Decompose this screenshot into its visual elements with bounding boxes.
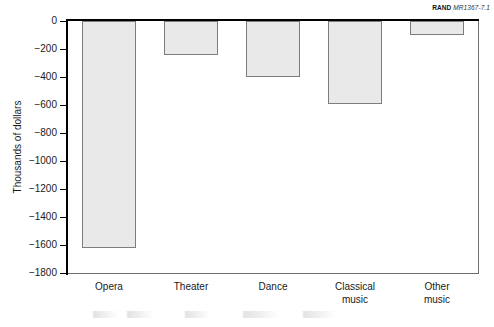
y-axis-tick-label: −1000	[29, 154, 57, 167]
bar	[410, 21, 464, 35]
y-axis-tick: −600	[60, 105, 68, 106]
x-axis-category-label: Theater	[150, 281, 232, 294]
y-axis-title: Thousands of dollars	[11, 21, 25, 273]
x-axis-category-label: Other music	[396, 281, 478, 306]
rand-brand-label: RAND	[432, 4, 451, 11]
bar	[246, 21, 300, 77]
y-axis-tick-label: −400	[34, 70, 57, 83]
x-axis-category-label: Classical music	[314, 281, 396, 306]
y-axis-tick: −200	[60, 49, 68, 50]
y-axis-tick: −1200	[60, 189, 68, 190]
plot-area: 0−200−400−600−800−1000−1200−1400−1600−18…	[68, 21, 478, 273]
y-axis-tick-label: −1800	[29, 266, 57, 279]
y-axis-tick-label: 0	[51, 14, 57, 27]
figure-identifier: RAND MR1367-7.1	[432, 4, 490, 11]
y-axis-tick: −1400	[60, 217, 68, 218]
y-axis-tick-label: −200	[34, 42, 57, 55]
plot-right-border	[478, 21, 479, 274]
bar	[164, 21, 218, 55]
scan-bleed-artifact	[92, 311, 392, 318]
y-axis-tick: −1000	[60, 161, 68, 162]
y-axis-tick: 0	[60, 21, 68, 22]
y-axis-tick-label: −1200	[29, 182, 57, 195]
plot-bottom-border	[68, 273, 479, 274]
y-axis-tick: −800	[60, 133, 68, 134]
x-axis-category-label: Opera	[68, 281, 150, 294]
y-axis-tick: −1600	[60, 245, 68, 246]
y-axis-tick: −400	[60, 77, 68, 78]
bar	[328, 21, 382, 104]
y-axis-tick-label: −1600	[29, 238, 57, 251]
y-axis-tick-label: −1400	[29, 210, 57, 223]
y-axis-line	[66, 19, 68, 275]
y-axis-tick-label: −600	[34, 98, 57, 111]
y-axis-tick: −1800	[60, 273, 68, 274]
bar	[82, 21, 136, 248]
bar-chart: RAND MR1367-7.1 Thousands of dollars 0−2…	[0, 0, 494, 327]
figure-number-label: MR1367-7.1	[453, 4, 490, 11]
x-axis-category-label: Dance	[232, 281, 314, 294]
y-axis-tick-label: −800	[34, 126, 57, 139]
